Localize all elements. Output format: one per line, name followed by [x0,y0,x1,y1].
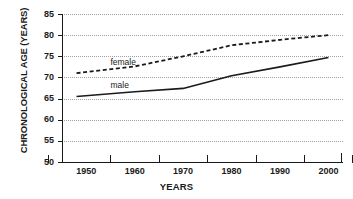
y-tick-label: 65 [28,94,54,103]
x-axis-right-cap [341,153,342,163]
series-layer [62,14,343,162]
y-axis-line [62,14,63,163]
y-tick-label: 80 [28,31,54,40]
x-tick-mark [48,155,49,163]
y-tick-label: 50 [28,158,54,167]
x-tick-label: 1950 [66,166,106,176]
x-axis-title: YEARS [0,181,353,192]
y-tick-label: 75 [28,52,54,61]
y-tick-label: 60 [28,115,54,124]
x-tick-label: 2000 [308,166,348,176]
x-axis-line [62,162,343,163]
plot-area: femalemale [62,14,343,162]
x-tick-label: 1970 [163,166,203,176]
series-label-female: female [110,57,136,67]
series-line-female [77,35,329,73]
x-tick-label: 1990 [260,166,300,176]
y-axis-title: CHRONOLOGICAL AGE (YEARS) [18,6,29,156]
x-tick-label: 1960 [115,166,155,176]
x-tick-label: 1980 [212,166,252,176]
series-label-male: male [110,80,128,90]
y-tick-label: 85 [28,10,54,19]
chronological-age-line-chart: CHRONOLOGICAL AGE (YEARS) YEARS femalema… [0,0,353,199]
y-tick-label: 70 [28,73,54,82]
y-tick-label: 55 [28,136,54,145]
